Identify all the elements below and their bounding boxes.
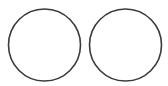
- circles-diagram: [0, 0, 168, 86]
- left-circle: [9, 9, 81, 81]
- right-circle: [90, 9, 162, 81]
- diagram-canvas: [0, 0, 168, 86]
